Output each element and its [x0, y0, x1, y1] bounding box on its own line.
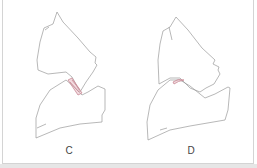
panel-d-label: D — [181, 145, 201, 156]
panel-c-label: C — [59, 145, 79, 156]
panel-c-drawing — [36, 12, 105, 138]
panel-c-lower-notch — [37, 124, 46, 128]
panel-d-lower-notch — [160, 128, 167, 130]
panel-d-upper-shape — [158, 17, 220, 92]
panel-d-lower-shape — [147, 80, 230, 140]
panel-d-upper-notch — [169, 27, 172, 40]
panel-c-upper-shape — [37, 12, 97, 92]
panel-d-drawing — [147, 17, 230, 140]
panel-c-contact-highlight — [68, 78, 82, 95]
diagram-canvas — [0, 0, 257, 168]
panel-c-lower-shape — [36, 80, 105, 138]
